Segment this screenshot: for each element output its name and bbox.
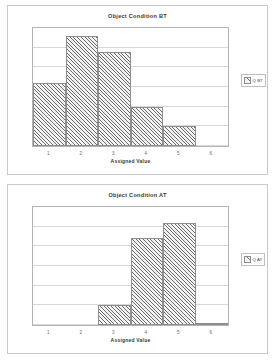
x-tick-label: 2 bbox=[79, 330, 82, 335]
x-tick-label: 2 bbox=[79, 151, 82, 156]
x-tick-label: 4 bbox=[144, 330, 147, 335]
plot-area-at bbox=[32, 206, 229, 326]
bar bbox=[163, 223, 196, 325]
legend-swatch-icon bbox=[244, 77, 251, 84]
chart-panel-bt: Object Condition BT 123456 Assigned Valu… bbox=[7, 5, 268, 175]
chart-title-bt: Object Condition BT bbox=[8, 12, 267, 20]
legend-at: Q AT bbox=[241, 253, 265, 266]
x-axis-label-at: Assigned Value bbox=[32, 337, 229, 343]
bar bbox=[196, 323, 229, 325]
x-tick-label: 6 bbox=[209, 330, 212, 335]
x-tick-label: 3 bbox=[112, 151, 115, 156]
legend-label-at: Q AT bbox=[253, 257, 263, 262]
x-tick-label: 1 bbox=[47, 330, 50, 335]
bar bbox=[98, 305, 131, 325]
plot-area-bt bbox=[32, 27, 229, 147]
chart-page: Object Condition BT 123456 Assigned Valu… bbox=[0, 0, 276, 361]
legend-label-bt: Q BT bbox=[253, 78, 263, 83]
x-tick-label: 3 bbox=[112, 330, 115, 335]
bar bbox=[131, 238, 164, 325]
bar bbox=[66, 36, 99, 146]
bar-series-bt bbox=[33, 28, 228, 146]
legend-swatch-icon bbox=[244, 256, 251, 263]
x-tick-label: 4 bbox=[144, 151, 147, 156]
bar bbox=[98, 52, 131, 146]
x-axis-label-bt: Assigned Value bbox=[32, 158, 229, 164]
x-tick-label: 6 bbox=[209, 151, 212, 156]
bar bbox=[163, 126, 196, 146]
x-tick-label: 5 bbox=[177, 151, 180, 156]
chart-title-at: Object Condition AT bbox=[8, 191, 267, 199]
chart-panel-at: Object Condition AT 123456 Assigned Valu… bbox=[7, 184, 268, 354]
legend-bt: Q BT bbox=[241, 74, 266, 87]
bar bbox=[131, 107, 164, 146]
x-tick-label: 5 bbox=[177, 330, 180, 335]
bar bbox=[33, 83, 66, 146]
bar-series-at bbox=[33, 207, 228, 325]
x-tick-label: 1 bbox=[47, 151, 50, 156]
